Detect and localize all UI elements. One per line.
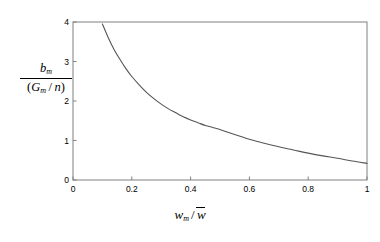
x-tick-label: 0.4: [185, 184, 197, 194]
x-tick-label: 0.8: [302, 184, 314, 194]
fraction-bar: [20, 78, 72, 79]
x-axis-label: wm / w: [120, 206, 260, 223]
x-tick-label: 0: [71, 184, 76, 194]
y-axis-label: bm (Gm / n): [20, 62, 72, 95]
x-tick-label: 0.6: [243, 184, 255, 194]
y-axis-label-numerator: bm: [20, 62, 72, 77]
x-tick-label: 0.2: [126, 184, 138, 194]
y-tick-label: 4: [64, 17, 69, 27]
x-tick-label: 1: [365, 184, 370, 194]
y-tick-label: 2: [64, 96, 69, 106]
y-tick-label: 1: [64, 136, 69, 146]
y-axis-label-denominator: (Gm / n): [20, 80, 72, 95]
y-tick-label: 0: [64, 175, 69, 185]
chart-figure: bm (Gm / n) wm / w 00.20.40.60.81 01234: [0, 0, 380, 242]
